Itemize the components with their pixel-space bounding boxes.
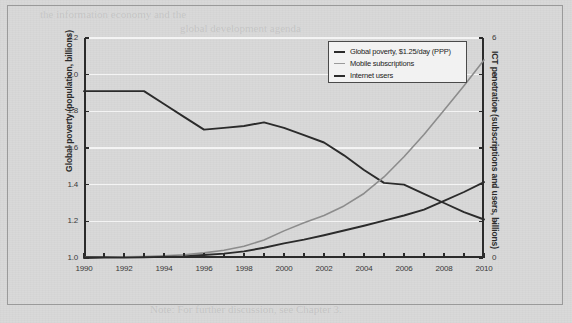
x-axis-tick <box>183 253 185 257</box>
y-axis-left-tick-label: 1.8 <box>38 106 78 115</box>
y-axis-left-tick <box>85 184 89 186</box>
series-line <box>84 60 484 258</box>
y-axis-right-tick <box>479 111 483 113</box>
y-axis-right-tick <box>479 221 483 223</box>
x-axis-tick <box>303 253 305 257</box>
y-axis-right-tick-label: 0 <box>492 253 512 262</box>
legend-item-internet: Internet users <box>334 70 461 81</box>
x-axis-tick <box>363 253 365 258</box>
x-axis-tick <box>283 253 285 258</box>
x-axis-tick-label: 1992 <box>104 264 144 273</box>
x-axis-tick-label: 1998 <box>224 264 264 273</box>
y-axis-left-tick <box>85 257 89 259</box>
y-axis-left-tick <box>85 111 89 113</box>
y-axis-right-tick-label: 5 <box>492 70 512 79</box>
y-axis-right-tick-label: 2 <box>492 180 512 189</box>
x-axis-tick <box>83 253 85 258</box>
x-axis-tick <box>343 253 345 257</box>
x-axis-tick <box>443 253 445 258</box>
x-axis-tick <box>123 253 125 258</box>
x-axis-tick <box>323 253 325 258</box>
legend-label-poverty: Global poverty, $1.25/day (PPP) <box>350 47 451 56</box>
x-axis-tick <box>483 253 485 258</box>
x-axis-tick-label: 2002 <box>304 264 344 273</box>
y-axis-right-tick-label: 6 <box>492 33 512 42</box>
x-axis-tick <box>203 253 205 258</box>
x-axis-tick <box>263 253 265 257</box>
y-axis-right-tick <box>479 37 483 39</box>
x-axis-tick <box>223 253 225 257</box>
legend-label-mobile: Mobile subscriptions <box>350 59 414 68</box>
y-axis-left-tick <box>85 37 89 39</box>
x-axis-tick-label: 1996 <box>184 264 224 273</box>
y-axis-right-tick-label: 4 <box>492 106 512 115</box>
y-axis-left-tick <box>85 74 89 76</box>
y-axis-left-tick-label: 1.4 <box>38 180 78 189</box>
chart-page: the information economy and the global d… <box>0 0 572 323</box>
x-axis-tick <box>103 253 105 257</box>
x-axis-tick-label: 1994 <box>144 264 184 273</box>
legend-item-poverty: Global poverty, $1.25/day (PPP) <box>334 46 461 57</box>
x-axis-tick <box>423 253 425 257</box>
x-axis-tick <box>403 253 405 258</box>
x-axis-tick-label: 1990 <box>64 264 104 273</box>
x-axis-tick <box>163 253 165 258</box>
y-axis-left-tick-label: 1.0 <box>38 253 78 262</box>
y-axis-right-tick <box>479 74 483 76</box>
x-axis-tick-label: 2000 <box>264 264 304 273</box>
x-axis-tick <box>383 253 385 257</box>
y-axis-left-tick <box>85 221 89 223</box>
y-axis-left-tick <box>85 147 89 149</box>
y-axis-right-tick-label: 3 <box>492 143 512 152</box>
y-axis-right-tick <box>479 184 483 186</box>
x-axis-tick-label: 2004 <box>344 264 384 273</box>
legend-item-mobile: Mobile subscriptions <box>334 58 461 69</box>
y-axis-left-tick-label: 2.0 <box>38 70 78 79</box>
x-axis-tick <box>143 253 145 257</box>
legend-label-internet: Internet users <box>350 71 393 80</box>
x-axis-tick-label: 2010 <box>464 264 504 273</box>
x-axis-tick <box>243 253 245 258</box>
series-line <box>84 91 484 219</box>
legend-swatch-poverty <box>334 51 345 53</box>
x-axis-tick-label: 2006 <box>384 264 424 273</box>
legend-swatch-mobile <box>334 63 345 64</box>
legend-swatch-internet <box>334 75 345 77</box>
y-axis-right-tick-label: 1 <box>492 216 512 225</box>
x-axis-tick <box>463 253 465 257</box>
y-axis-left-tick-label: 1.6 <box>38 143 78 152</box>
chart-legend: Global poverty, $1.25/day (PPP) Mobile s… <box>328 41 467 83</box>
y-axis-right-tick <box>479 147 483 149</box>
y-axis-left-tick-label: 1.2 <box>38 216 78 225</box>
y-axis-left-tick-label: 2.2 <box>38 33 78 42</box>
x-axis-tick-label: 2008 <box>424 264 464 273</box>
